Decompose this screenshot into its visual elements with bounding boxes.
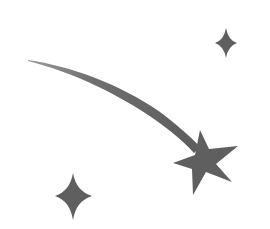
sparkle-small-icon <box>215 28 237 58</box>
illustration-svg <box>0 0 270 229</box>
star-trail-icon <box>28 60 200 153</box>
sparkle-large-icon <box>55 173 92 220</box>
shooting-star-illustration <box>0 0 270 229</box>
